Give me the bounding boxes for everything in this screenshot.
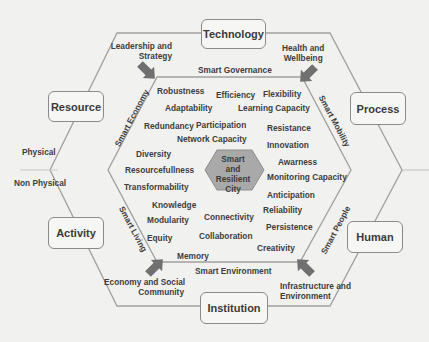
attr-participation: Participation: [196, 121, 246, 131]
attr-flexibility: Flexibility: [263, 90, 301, 100]
corner-label-bottom-left: Economy and Social Community: [104, 278, 184, 298]
box-resource-label: Resource: [51, 101, 101, 113]
box-human: Human: [347, 221, 403, 253]
attr-efficiency: Efficiency: [216, 91, 255, 101]
attr-connectivity: Connectivity: [204, 213, 254, 223]
attr-persistence: Persistence: [266, 223, 313, 233]
box-activity: Activity: [48, 217, 104, 249]
side-label-smart-governance: Smart Governance: [198, 65, 272, 75]
arrow-top-right-icon: [295, 61, 321, 87]
arrow-top-left-icon: [134, 58, 160, 84]
box-process: Process: [350, 92, 406, 125]
center-line4: City: [203, 185, 263, 195]
physical-label: Physical: [22, 148, 56, 158]
corner-top-right-line2: Wellbeing: [282, 54, 324, 64]
box-technology-label: Technology: [203, 28, 264, 40]
attr-modularity: Modularity: [147, 216, 189, 226]
attr-robustness: Robustness: [157, 87, 204, 97]
attr-redundancy: Redundancy: [144, 122, 194, 132]
corner-label-top-right: Health and Wellbeing: [282, 44, 324, 64]
box-institution-label: Institution: [207, 302, 260, 314]
attr-resourcefullness: Resourcefullness: [125, 166, 194, 176]
box-technology: Technology: [201, 19, 266, 49]
attr-knowledge: Knowledge: [152, 201, 196, 211]
arrow-bottom-right-icon: [292, 254, 318, 280]
center-label: Smart and Resilient City: [203, 155, 263, 195]
attr-memory: Memory: [177, 252, 209, 262]
corner-bottom-left-line2: Community: [104, 288, 184, 298]
corner-bottom-right-line2: Environment: [280, 292, 351, 302]
attr-collaboration: Collaboration: [199, 232, 252, 242]
attr-anticipation: Anticipation: [267, 191, 315, 201]
corner-label-top-left: Leadership and Strategy: [110, 42, 172, 62]
arrow-bottom-left-icon: [142, 254, 168, 280]
attr-equity: Equity: [147, 234, 172, 244]
attr-awarness: Awarness: [278, 158, 317, 168]
box-process-label: Process: [357, 103, 400, 115]
attr-creativity: Creativity: [257, 244, 295, 254]
attr-adaptability: Adaptability: [165, 104, 212, 114]
side-label-smart-environment: Smart Environment: [195, 266, 272, 276]
attr-reliability: Reliability: [263, 206, 302, 216]
box-resource: Resource: [48, 91, 104, 122]
corner-top-left-line2: Strategy: [110, 52, 172, 62]
non-physical-label: Non Physical: [14, 179, 66, 189]
attr-network-capacity: Network Capacity: [177, 135, 247, 145]
attr-innovation: Innovation: [267, 141, 309, 151]
box-human-label: Human: [356, 231, 393, 243]
attr-learning-capacity: Learning Capacity: [238, 104, 310, 114]
attr-resistance: Resistance: [267, 124, 311, 134]
attr-monitoring-capacity: Monitoring Capacity: [267, 173, 347, 183]
box-institution: Institution: [200, 292, 268, 324]
attr-diversity: Diversity: [136, 150, 171, 160]
corner-label-bottom-right: Infrastructure and Environment: [280, 282, 351, 302]
attr-transformability: Transformability: [124, 183, 189, 193]
box-activity-label: Activity: [56, 227, 96, 239]
